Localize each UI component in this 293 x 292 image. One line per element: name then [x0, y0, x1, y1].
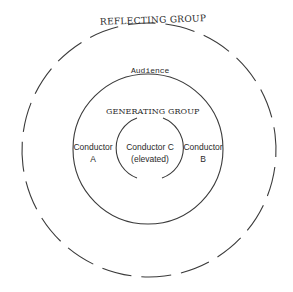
- conductor-b-letter: B: [181, 155, 225, 164]
- conductor-a-label: Conductor A: [71, 143, 115, 166]
- conductor-c-title: Conductor C: [118, 143, 182, 152]
- generating-group-label: GENERATING GROUP: [106, 108, 200, 116]
- audience-label: Audience: [131, 67, 169, 75]
- conductor-b-title: Conductor: [181, 143, 225, 152]
- conductor-b-label: Conductor B: [181, 143, 225, 166]
- conductor-c-label: Conductor C (elevated): [118, 143, 182, 166]
- conductor-a-title: Conductor: [71, 143, 115, 152]
- conductor-a-letter: A: [71, 155, 115, 164]
- conductor-c-note: (elevated): [118, 155, 182, 164]
